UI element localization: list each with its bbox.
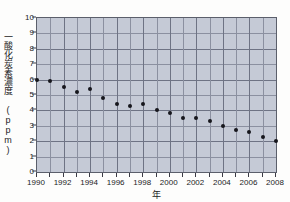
data-point bbox=[168, 111, 172, 115]
gridline-vertical bbox=[223, 18, 224, 172]
gridline-vertical bbox=[210, 18, 211, 172]
x-tick-label: 1990 bbox=[27, 178, 45, 187]
x-tick-label: 2008 bbox=[266, 178, 284, 187]
x-tick-mark bbox=[76, 173, 77, 177]
gridline-vertical bbox=[157, 18, 158, 172]
x-tick-label: 1994 bbox=[80, 178, 98, 187]
data-point bbox=[155, 108, 159, 112]
y-axis-ticks: 012345678910 bbox=[16, 0, 36, 202]
x-tick-label: 2002 bbox=[186, 178, 204, 187]
data-point bbox=[274, 139, 278, 143]
x-tick-label: 1992 bbox=[54, 178, 72, 187]
co-concentration-chart: 一酸化炭素濃度 (ppm) 012345678910 1990199219941… bbox=[0, 0, 290, 202]
gridline-vertical bbox=[236, 18, 237, 172]
x-tick-mark bbox=[116, 173, 117, 177]
data-point bbox=[115, 102, 119, 106]
x-tick-label: 2000 bbox=[160, 178, 178, 187]
x-tick-mark bbox=[49, 173, 50, 177]
data-point bbox=[261, 135, 265, 139]
x-tick-mark bbox=[89, 173, 90, 177]
gridline-vertical bbox=[90, 18, 91, 172]
data-point bbox=[194, 116, 198, 120]
gridline-vertical bbox=[249, 18, 250, 172]
x-tick-mark bbox=[142, 173, 143, 177]
data-point bbox=[101, 96, 105, 100]
data-point bbox=[75, 90, 79, 94]
y-axis-title: 一酸化炭素濃度 (ppm) bbox=[0, 18, 16, 168]
gridline-vertical bbox=[170, 18, 171, 172]
data-point bbox=[88, 87, 92, 91]
data-point bbox=[181, 116, 185, 120]
data-point bbox=[62, 85, 66, 89]
x-tick-mark bbox=[169, 173, 170, 177]
gridline-vertical bbox=[77, 18, 78, 172]
x-tick-mark bbox=[129, 173, 130, 177]
gridline-vertical bbox=[50, 18, 51, 172]
x-axis-ticks: 1990199219941996199820002002200420062008 bbox=[36, 173, 277, 189]
data-point bbox=[35, 78, 39, 82]
data-point bbox=[141, 102, 145, 106]
gridline-vertical bbox=[196, 18, 197, 172]
gridline-vertical bbox=[103, 18, 104, 172]
plot-area bbox=[36, 17, 277, 173]
x-tick-mark bbox=[182, 173, 183, 177]
x-tick-mark bbox=[36, 173, 37, 177]
data-point bbox=[234, 128, 238, 132]
x-tick-mark bbox=[235, 173, 236, 177]
gridline-vertical bbox=[143, 18, 144, 172]
x-tick-mark bbox=[209, 173, 210, 177]
data-point bbox=[208, 119, 212, 123]
gridline-vertical bbox=[64, 18, 65, 172]
gridline-vertical bbox=[263, 18, 264, 172]
x-tick-label: 1998 bbox=[133, 178, 151, 187]
x-tick-mark bbox=[195, 173, 196, 177]
data-point bbox=[128, 104, 132, 108]
x-tick-mark bbox=[222, 173, 223, 177]
x-axis-title: 年 bbox=[36, 188, 277, 201]
x-tick-mark bbox=[63, 173, 64, 177]
data-point bbox=[221, 124, 225, 128]
x-tick-label: 2006 bbox=[240, 178, 258, 187]
data-point bbox=[48, 79, 52, 83]
x-tick-mark bbox=[102, 173, 103, 177]
x-tick-mark bbox=[156, 173, 157, 177]
gridline-vertical bbox=[183, 18, 184, 172]
x-tick-label: 1996 bbox=[107, 178, 125, 187]
x-tick-mark bbox=[248, 173, 249, 177]
x-tick-mark bbox=[275, 173, 276, 177]
gridline-vertical bbox=[130, 18, 131, 172]
gridline-vertical bbox=[117, 18, 118, 172]
data-point bbox=[247, 130, 251, 134]
x-tick-label: 2004 bbox=[213, 178, 231, 187]
x-tick-mark bbox=[262, 173, 263, 177]
